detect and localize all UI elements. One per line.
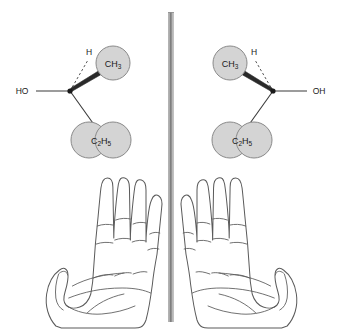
right-molecule: OH H CH3 C2H5 — [212, 46, 325, 158]
label-hydroxyl: OH — [313, 86, 326, 96]
label-hydrogen: H — [86, 47, 92, 57]
group-methyl: CH3 — [96, 46, 130, 80]
bond-ethyl — [248, 91, 273, 126]
bond-methyl-wedge — [69, 70, 102, 93]
label-hydrogen: H — [251, 47, 257, 57]
bond-methyl-wedge — [241, 70, 274, 93]
stereocenter — [270, 88, 275, 93]
stereocenter — [67, 88, 72, 93]
right-hand-illustration — [181, 178, 297, 328]
group-methyl: CH3 — [213, 46, 247, 80]
left-molecule: HO H CH3 C2H5 — [16, 46, 131, 158]
enantiomer-figure: HO H CH3 C2H5 OH H — [0, 0, 343, 332]
bond-ethyl — [70, 91, 95, 126]
mirror-plane — [168, 12, 174, 322]
left-hand-illustration — [46, 178, 162, 328]
group-ethyl: C2H5 — [212, 122, 272, 158]
group-ethyl: C2H5 — [71, 122, 131, 158]
label-hydroxyl: HO — [16, 86, 29, 96]
